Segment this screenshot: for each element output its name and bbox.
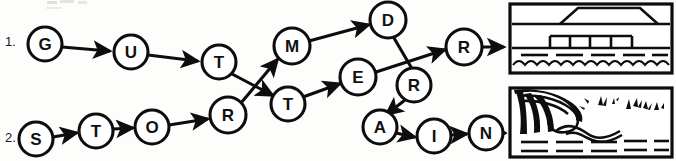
edge-u-to-t1 xyxy=(148,55,197,61)
node-e[interactable]: E xyxy=(340,59,376,95)
node-i-label: I xyxy=(432,127,437,146)
node-t-row1-label: T xyxy=(214,53,225,72)
node-t-row2-a[interactable]: T xyxy=(79,114,113,148)
node-r-middle[interactable]: R xyxy=(397,68,431,102)
edge-t3-to-e xyxy=(303,84,339,97)
node-t-row2-b-label: T xyxy=(283,95,294,114)
node-g[interactable]: G xyxy=(28,27,62,61)
node-r-final[interactable]: R xyxy=(446,29,482,65)
node-d[interactable]: D xyxy=(370,2,406,38)
node-m-label: M xyxy=(285,37,299,56)
node-e-label: E xyxy=(352,68,363,87)
scan-smudge xyxy=(46,0,87,9)
node-u[interactable]: U xyxy=(114,35,148,69)
worksheet-canvas: G U T M D R E xyxy=(0,0,676,161)
edge-g-to-u xyxy=(62,47,109,51)
node-r-row2[interactable]: R xyxy=(210,97,246,133)
row-number-1: 1. xyxy=(5,34,16,49)
picture-bridge-over-water[interactable] xyxy=(510,4,672,73)
node-t-row2-a-label: T xyxy=(91,122,102,141)
node-u-label: U xyxy=(125,43,137,62)
node-n-label: N xyxy=(480,124,492,143)
node-g-label: G xyxy=(38,35,51,54)
node-n[interactable]: N xyxy=(469,116,503,150)
node-t-row1[interactable]: T xyxy=(202,45,236,79)
row-number-2: 2. xyxy=(5,130,16,145)
node-o[interactable]: O xyxy=(135,110,169,144)
edge-m-to-d xyxy=(309,25,368,41)
node-t-row2-b[interactable]: T xyxy=(271,87,305,121)
edge-t2-to-o xyxy=(113,128,132,129)
edge-o-to-r1 xyxy=(169,119,207,125)
diagram-svg: G U T M D R E xyxy=(0,0,676,161)
node-r-row2-label: R xyxy=(222,106,234,125)
edge-i-to-n xyxy=(451,134,466,135)
node-s-label: S xyxy=(30,130,41,149)
node-a[interactable]: A xyxy=(363,110,397,144)
edge-a-to-i xyxy=(396,133,414,137)
edge-s-to-t2 xyxy=(53,133,76,137)
node-a-label: A xyxy=(374,118,386,137)
node-m[interactable]: M xyxy=(274,28,310,64)
node-d-label: D xyxy=(382,11,394,30)
node-o-label: O xyxy=(145,118,158,137)
picture-breaking-wave[interactable] xyxy=(510,88,672,157)
node-r-middle-label: R xyxy=(408,76,420,95)
node-s[interactable]: S xyxy=(19,122,53,156)
node-i[interactable]: I xyxy=(417,119,451,153)
node-r-final-label: R xyxy=(458,38,470,57)
